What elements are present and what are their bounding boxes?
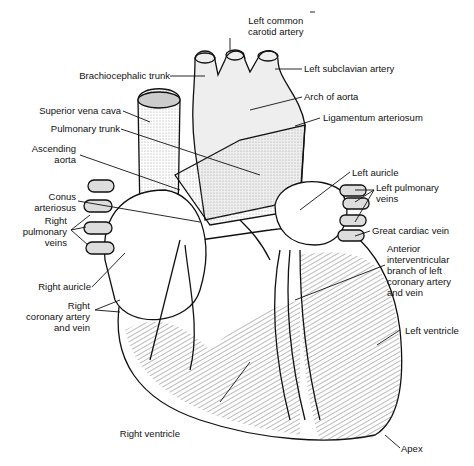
label-superior-vena-cava: Superior vena cava bbox=[20, 105, 121, 116]
label-left-auricle: Left auricle bbox=[352, 167, 398, 178]
label-right-ventricle: Right ventricle bbox=[100, 428, 180, 439]
label-brachiocephalic-trunk: Brachiocephalic trunk bbox=[70, 70, 170, 81]
label-line: veins bbox=[376, 193, 439, 204]
label-line: coronary artery bbox=[387, 276, 451, 287]
label-line: interventricular bbox=[387, 254, 451, 265]
label-line: and vein bbox=[10, 322, 90, 333]
label-line: pulmonary bbox=[5, 226, 67, 237]
label-left-ventricle: Left ventricle bbox=[405, 325, 459, 336]
label-line: coronary artery bbox=[10, 311, 90, 322]
heart-diagram: Left common carotid artery Brachiocephal… bbox=[0, 0, 474, 466]
label-line: aorta bbox=[10, 154, 76, 165]
label-line: carotid artery bbox=[248, 26, 303, 37]
label-line: arteriosus bbox=[10, 202, 76, 213]
label-pulmonary-trunk: Pulmonary trunk bbox=[20, 123, 120, 134]
label-conus-arteriosus: Conus arteriosus bbox=[10, 191, 76, 213]
label-line: Conus bbox=[10, 191, 76, 202]
label-right-pulmonary-veins: Right pulmonary veins bbox=[5, 215, 67, 248]
label-apex: Apex bbox=[401, 443, 423, 454]
label-anterior-interventricular-branch: Anterior interventricular branch of left… bbox=[387, 243, 451, 298]
label-great-cardiac-vein: Great cardiac vein bbox=[372, 225, 449, 236]
label-line: Right bbox=[10, 300, 90, 311]
label-line: Right bbox=[5, 215, 67, 226]
label-right-auricle: Right auricle bbox=[10, 281, 91, 292]
label-line: Left common bbox=[248, 15, 303, 26]
label-left-subclavian-artery: Left subclavian artery bbox=[304, 63, 394, 74]
label-arch-of-aorta: Arch of aorta bbox=[304, 91, 358, 102]
label-ligamentum-arteriosum: Ligamentum arteriosum bbox=[323, 112, 423, 123]
label-line: Left pulmonary bbox=[376, 182, 439, 193]
label-line: branch of left bbox=[387, 265, 451, 276]
label-left-common-carotid: Left common carotid artery bbox=[248, 15, 303, 37]
label-right-coronary-artery-vein: Right coronary artery and vein bbox=[10, 300, 90, 333]
label-line: veins bbox=[5, 237, 67, 248]
label-left-pulmonary-veins: Left pulmonary veins bbox=[376, 182, 439, 204]
label-line: Anterior bbox=[387, 243, 451, 254]
label-line: Ascending bbox=[10, 143, 76, 154]
label-ascending-aorta: Ascending aorta bbox=[10, 143, 76, 165]
label-line: and vein bbox=[387, 287, 451, 298]
